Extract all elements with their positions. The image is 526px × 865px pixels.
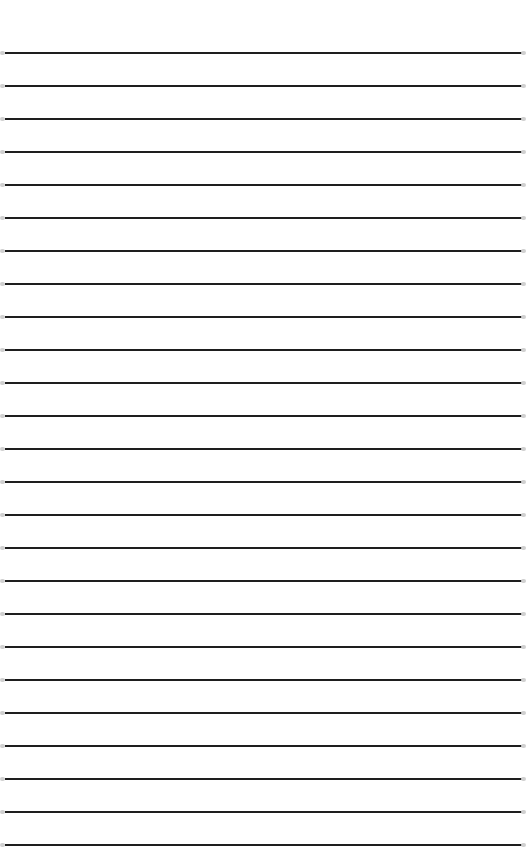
line-end-mark xyxy=(0,348,5,352)
line-end-mark xyxy=(521,183,526,187)
lined-paper-sheet xyxy=(0,0,526,865)
line-end-mark xyxy=(521,414,526,418)
ruled-line xyxy=(5,778,522,780)
line-end-mark xyxy=(0,678,5,682)
ruled-line xyxy=(5,580,522,582)
ruled-line xyxy=(5,382,522,384)
line-end-mark xyxy=(0,546,5,550)
line-end-mark xyxy=(0,51,5,55)
line-end-mark xyxy=(521,381,526,385)
line-end-mark xyxy=(0,711,5,715)
line-end-mark xyxy=(0,513,5,517)
line-end-mark xyxy=(521,513,526,517)
ruled-line xyxy=(5,811,522,813)
ruled-line xyxy=(5,514,522,516)
line-end-mark xyxy=(0,480,5,484)
line-end-mark xyxy=(521,678,526,682)
ruled-line xyxy=(5,283,522,285)
line-end-mark xyxy=(521,249,526,253)
line-end-mark xyxy=(0,216,5,220)
line-end-mark xyxy=(0,744,5,748)
line-end-mark xyxy=(0,117,5,121)
line-end-mark xyxy=(0,150,5,154)
line-end-mark xyxy=(521,150,526,154)
line-end-mark xyxy=(0,249,5,253)
line-end-mark xyxy=(521,645,526,649)
line-end-mark xyxy=(521,711,526,715)
line-end-mark xyxy=(521,612,526,616)
line-end-mark xyxy=(0,810,5,814)
ruled-line xyxy=(5,844,522,846)
line-end-mark xyxy=(0,612,5,616)
line-end-mark xyxy=(521,315,526,319)
line-end-mark xyxy=(0,183,5,187)
line-end-mark xyxy=(521,51,526,55)
line-end-mark xyxy=(521,480,526,484)
ruled-line xyxy=(5,217,522,219)
ruled-line xyxy=(5,250,522,252)
line-end-mark xyxy=(0,381,5,385)
line-end-mark xyxy=(0,84,5,88)
line-end-mark xyxy=(0,579,5,583)
line-end-mark xyxy=(521,348,526,352)
line-end-mark xyxy=(521,447,526,451)
line-end-mark xyxy=(521,777,526,781)
line-end-mark xyxy=(0,447,5,451)
ruled-line xyxy=(5,118,522,120)
ruled-line xyxy=(5,679,522,681)
line-end-mark xyxy=(521,843,526,847)
line-end-mark xyxy=(521,744,526,748)
line-end-mark xyxy=(0,282,5,286)
ruled-line xyxy=(5,745,522,747)
ruled-line xyxy=(5,85,522,87)
ruled-line xyxy=(5,481,522,483)
ruled-line xyxy=(5,547,522,549)
line-end-mark xyxy=(0,645,5,649)
ruled-line xyxy=(5,52,522,54)
ruled-line xyxy=(5,415,522,417)
line-end-mark xyxy=(0,414,5,418)
line-end-mark xyxy=(521,579,526,583)
ruled-line xyxy=(5,316,522,318)
line-end-mark xyxy=(521,282,526,286)
line-end-mark xyxy=(0,843,5,847)
line-end-mark xyxy=(521,810,526,814)
line-end-mark xyxy=(0,315,5,319)
line-end-mark xyxy=(0,777,5,781)
ruled-line xyxy=(5,613,522,615)
ruled-line xyxy=(5,184,522,186)
ruled-line xyxy=(5,349,522,351)
ruled-line xyxy=(5,448,522,450)
ruled-line xyxy=(5,712,522,714)
line-end-mark xyxy=(521,546,526,550)
line-end-mark xyxy=(521,117,526,121)
line-end-mark xyxy=(521,84,526,88)
line-end-mark xyxy=(521,216,526,220)
ruled-line xyxy=(5,646,522,648)
ruled-line xyxy=(5,151,522,153)
